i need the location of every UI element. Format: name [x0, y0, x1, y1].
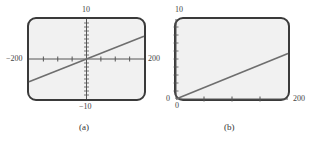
data-line-b — [176, 53, 288, 99]
xmin-label-b: 0 — [175, 102, 179, 110]
ymax-label-b: 10 — [175, 6, 183, 14]
xmax-label-b: 200 — [293, 95, 305, 103]
ymin-label-b: 0 — [166, 95, 170, 103]
caption-b: (b) — [224, 122, 235, 132]
plot-b — [0, 0, 310, 143]
